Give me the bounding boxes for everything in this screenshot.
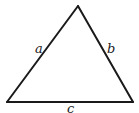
triangle-diagram: a b c <box>0 0 139 113</box>
side-b-line <box>78 6 133 102</box>
side-c-label: c <box>67 101 75 113</box>
triangle-canvas: a b c <box>0 0 139 113</box>
side-b-label: b <box>107 41 115 56</box>
side-a-label: a <box>35 41 43 56</box>
